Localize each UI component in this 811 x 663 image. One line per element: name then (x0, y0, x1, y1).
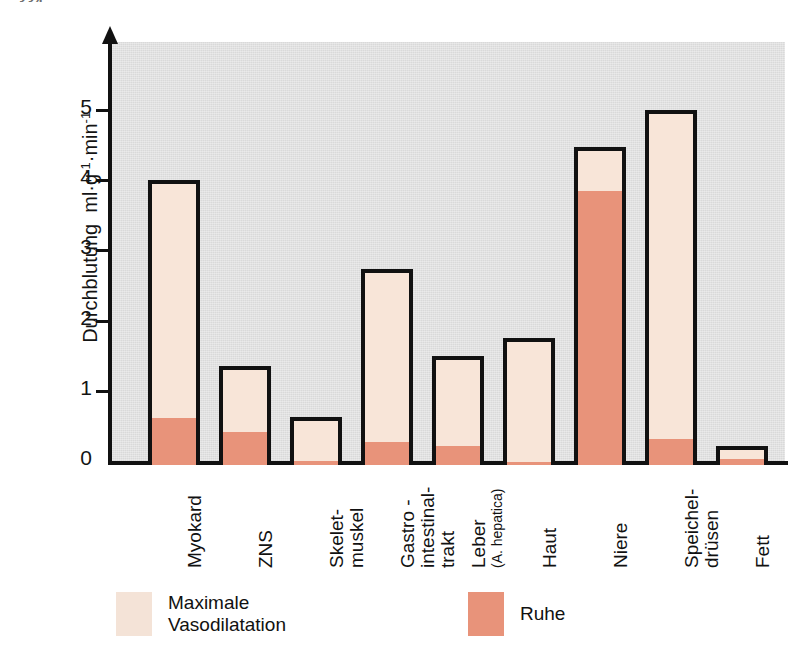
bar-rest-segment (720, 459, 764, 465)
bar-fett (716, 446, 768, 465)
bar-skeletmuskel (290, 417, 342, 465)
y-axis-title-main: Durchblutung (79, 224, 101, 343)
bar-rest-segment (436, 446, 480, 465)
x-category-label-line: ZNS (256, 530, 276, 568)
legend-swatch-ruhe (468, 592, 504, 636)
y-axis-arrow-icon (102, 26, 118, 44)
y-tick-label-0: 0 (52, 446, 92, 470)
x-category-label-1: ZNS (256, 530, 276, 568)
x-category-label-line: trakt (438, 487, 458, 568)
x-category-label-0: Myokard (185, 495, 205, 568)
bar-rest-segment (223, 432, 267, 465)
bar-gastrointestinaltrakt (361, 269, 413, 465)
bar-speicheldrüsen (645, 110, 697, 465)
x-category-label-line: Niere (611, 523, 631, 568)
x-category-label-line: Haut (540, 528, 560, 568)
x-category-label-7: Speichel-drüsen (682, 489, 722, 568)
bar-rest-segment (294, 461, 338, 465)
bar-rest-segment (365, 442, 409, 465)
legend-item-1: Ruhe (468, 592, 565, 636)
x-category-sublabel: (A. hepatica) (489, 489, 505, 568)
x-category-label-3: Gastro -intestinal-trakt (398, 487, 458, 568)
legend-swatch-vaso (116, 592, 152, 636)
legend-label: Maximale Vasodilatation (168, 592, 286, 636)
bar-rest-segment (507, 462, 551, 465)
y-axis-title: Durchblutung ml·g-1·min-1 (78, 27, 103, 427)
x-category-label-8: Fett (753, 535, 773, 568)
page-number: 334 (17, 0, 44, 2)
bar-rest-segment (152, 418, 196, 465)
x-category-label-line: intestinal- (418, 487, 438, 568)
x-category-label-line: Leber (469, 489, 489, 568)
x-category-label-line: Myokard (185, 495, 205, 568)
bar-niere (574, 147, 626, 465)
x-category-label-2: Skelet-muskel (327, 508, 367, 568)
y-axis-unit-mid: ·min (79, 123, 101, 162)
x-category-label-6: Niere (611, 523, 631, 568)
bar-rest-segment (578, 191, 622, 465)
y-axis-unit-base: ml·g (79, 174, 101, 213)
x-category-label-line: muskel (347, 508, 367, 568)
bar-leber (432, 356, 484, 465)
bar-rest-segment (649, 439, 693, 465)
x-category-label-line: Fett (753, 535, 773, 568)
x-category-label-line: Gastro - (398, 487, 418, 568)
x-category-label-line: drüsen (702, 489, 722, 568)
x-category-label-line: Skelet- (327, 508, 347, 568)
x-category-label-line: Speichel- (682, 489, 702, 568)
bar-myokard (148, 180, 200, 465)
x-category-label-4: Leber(A. hepatica) (469, 489, 505, 568)
bar-zns (219, 366, 271, 465)
y-axis-unit-exp1: -1 (78, 162, 93, 174)
y-axis-unit-exp2: -1 (78, 112, 93, 124)
legend-label: Ruhe (520, 603, 565, 625)
blood-flow-bar-chart: 334 012345 Durchblutung ml·g-1·min-1 Myo… (0, 0, 811, 663)
bar-haut (503, 338, 555, 465)
x-category-label-5: Haut (540, 528, 560, 568)
legend-item-0: Maximale Vasodilatation (116, 592, 286, 636)
